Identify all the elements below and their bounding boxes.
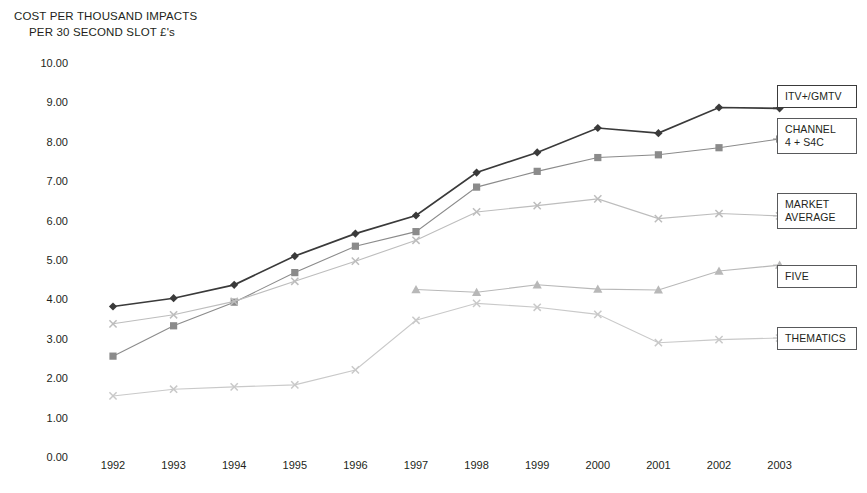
data-point-marker-x <box>352 366 359 373</box>
series-line <box>113 108 780 307</box>
data-point-marker-diamond <box>351 230 359 238</box>
data-point-marker-x <box>412 237 419 244</box>
data-point-marker-square <box>412 228 419 235</box>
data-point-marker-square <box>534 168 541 175</box>
data-point-marker-diamond <box>715 103 723 111</box>
data-point-marker-triangle <box>533 280 542 288</box>
data-point-marker-square <box>109 353 116 360</box>
data-point-marker-diamond <box>109 302 117 310</box>
data-point-marker-square <box>291 269 298 276</box>
data-point-marker-x <box>412 317 419 324</box>
data-point-marker-diamond <box>654 129 662 137</box>
data-point-marker-diamond <box>230 281 238 289</box>
legend-item-channel-4-s4c[interactable]: CHANNEL 4 + S4C <box>777 118 857 154</box>
data-point-marker-diamond <box>594 124 602 132</box>
legend-item-market-average[interactable]: MARKET AVERAGE <box>777 193 857 229</box>
data-point-marker-square <box>352 243 359 250</box>
series-line <box>113 199 780 324</box>
data-point-marker-square <box>473 184 480 191</box>
series-line <box>113 303 780 396</box>
legend-item-thematics[interactable]: THEMATICS <box>777 327 857 350</box>
data-point-marker-diamond <box>170 294 178 302</box>
series-line <box>113 139 780 356</box>
chart-root: COST PER THOUSAND IMPACTS PER 30 SECOND … <box>0 0 867 493</box>
data-point-marker-diamond <box>533 148 541 156</box>
plot-area: 10.009.008.007.006.005.004.003.002.001.0… <box>0 0 867 493</box>
series-market-average <box>109 195 783 327</box>
data-point-marker-diamond <box>291 252 299 260</box>
data-point-marker-square <box>715 144 722 151</box>
data-point-marker-triangle <box>411 285 420 293</box>
data-point-marker-square <box>170 322 177 329</box>
data-point-marker-x <box>352 258 359 265</box>
data-point-marker-square <box>594 154 601 161</box>
legend-item-five[interactable]: FIVE <box>777 265 857 288</box>
data-point-marker-x <box>291 278 298 285</box>
series-five <box>411 261 784 296</box>
series-itv-gmtv <box>109 103 784 310</box>
series-channel-4-s4c <box>109 135 783 359</box>
legend-item-itv-gmtv[interactable]: ITV+/GMTV <box>777 85 857 108</box>
series-thematics <box>109 300 783 400</box>
data-point-marker-square <box>655 151 662 158</box>
series-layer <box>0 0 867 493</box>
